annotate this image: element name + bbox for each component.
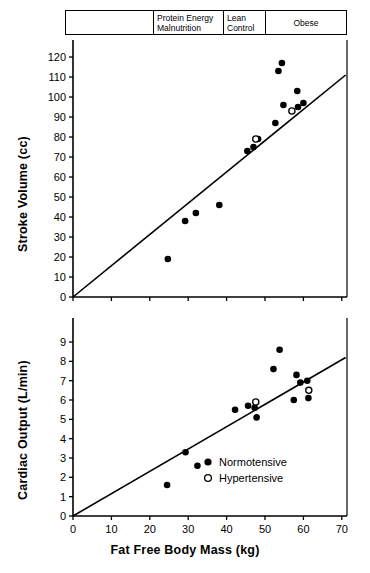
y-tick-label: 0 (60, 510, 66, 522)
data-point-normotensive (304, 377, 311, 384)
y-tick-label: 7 (60, 375, 66, 387)
y-tick-label: 80 (54, 131, 66, 143)
x-tick-label: 10 (105, 523, 117, 535)
legend-label-normotensive: Normotensive (219, 456, 287, 468)
data-point-normotensive (291, 397, 298, 404)
y-tick-label: 70 (54, 151, 66, 163)
y-tick-label: 6 (60, 394, 66, 406)
y-tick-label: 4 (60, 433, 66, 445)
data-point-normotensive (245, 403, 252, 410)
legend: NormotensiveHypertensive (204, 456, 286, 484)
y-tick-label: 10 (54, 271, 66, 283)
data-point-normotensive (275, 68, 282, 75)
y-tick-label: 120 (48, 51, 66, 63)
y-tick-label: 8 (60, 355, 66, 367)
y-tick-label: 90 (54, 111, 66, 123)
x-tick-label: 40 (220, 523, 232, 535)
data-point-normotensive (294, 88, 301, 95)
data-point-normotensive (216, 202, 223, 209)
y-tick-label: 0 (60, 291, 66, 303)
data-point-normotensive (279, 60, 286, 67)
data-point-normotensive (305, 395, 312, 402)
data-point-normotensive (193, 210, 200, 217)
y-tick-label: 40 (54, 211, 66, 223)
panel-stroke-volume: 0102030405060708090100110120 (48, 40, 347, 303)
legend-marker-normotensive (204, 458, 211, 465)
data-point-normotensive (250, 144, 257, 151)
data-point-normotensive (297, 379, 304, 386)
y-tick-label: 100 (48, 91, 66, 103)
x-tick-label: 20 (144, 523, 156, 535)
data-point-normotensive (182, 449, 189, 456)
x-tick-label: 0 (70, 523, 76, 535)
y-tick-label: 9 (60, 336, 66, 348)
data-point-normotensive (295, 104, 302, 111)
y-tick-label: 50 (54, 191, 66, 203)
y-tick-label: 30 (54, 231, 66, 243)
y-tick-label: 60 (54, 171, 66, 183)
figure: Protein Energy Malnutrition Lean Control… (0, 0, 370, 573)
x-tick-label: 70 (336, 523, 348, 535)
data-point-normotensive (300, 100, 307, 107)
y-tick-label: 110 (48, 71, 66, 83)
x-tick-label: 50 (259, 523, 271, 535)
data-point-normotensive (182, 218, 189, 225)
data-point-normotensive (164, 482, 171, 489)
data-point-normotensive (276, 346, 283, 353)
x-tick-label: 30 (182, 523, 194, 535)
data-point-normotensive (293, 372, 300, 379)
y-tick-label: 5 (60, 413, 66, 425)
data-point-normotensive (280, 102, 287, 109)
scatter-plot-canvas: 0102030405060708090100110120 01234567890… (0, 0, 370, 573)
legend-label-hypertensive: Hypertensive (219, 472, 283, 484)
panel-cardiac-output: 0123456789010203040506070 (60, 318, 348, 535)
data-point-normotensive (244, 148, 251, 155)
y-tick-label: 2 (60, 471, 66, 483)
y-tick-label: 3 (60, 452, 66, 464)
data-point-normotensive (165, 256, 172, 263)
data-point-normotensive (232, 406, 239, 413)
y-tick-label: 20 (54, 251, 66, 263)
data-point-normotensive (253, 414, 260, 421)
x-tick-label: 60 (297, 523, 309, 535)
data-point-normotensive (194, 462, 201, 469)
data-point-hypertensive (306, 387, 312, 393)
y-tick-label: 1 (60, 491, 66, 503)
data-point-hypertensive (289, 108, 295, 114)
regression-line (73, 75, 346, 297)
data-point-hypertensive (253, 399, 259, 405)
legend-marker-hypertensive (205, 475, 212, 482)
data-point-normotensive (272, 120, 279, 127)
data-point-normotensive (270, 366, 277, 373)
data-point-hypertensive (253, 136, 259, 142)
